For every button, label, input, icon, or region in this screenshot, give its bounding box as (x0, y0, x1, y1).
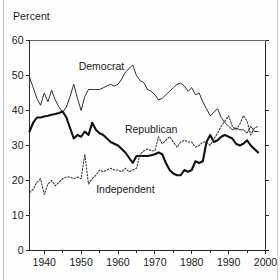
line-chart-plot: 0102030405060 19401950196019701980199020… (0, 0, 280, 280)
series-label-republican: Republican (125, 123, 178, 135)
chart-figure: Percent 0102030405060 194019501960197019… (0, 0, 280, 280)
y-tick-label: 50 (12, 69, 24, 81)
y-tick-label: 20 (12, 174, 24, 186)
x-axis-tick-labels: 1940195019601970198019902000 (33, 256, 278, 268)
series-annotations: DemocratDemocratRepublicanRepublicanInde… (79, 60, 178, 195)
y-tick-label: 60 (12, 34, 24, 46)
y-tick-label: 40 (12, 104, 24, 116)
y-tick-label: 30 (12, 139, 24, 151)
x-tick-label: 1960 (106, 256, 130, 268)
axis-ticks (26, 41, 269, 255)
x-tick-label: 1940 (33, 256, 57, 268)
x-tick-label: 1980 (180, 256, 204, 268)
y-tick-label: 0 (18, 244, 24, 256)
series-label-democrat: Democrat (79, 60, 125, 72)
x-tick-label: 2000 (254, 256, 278, 268)
y-tick-label: 10 (12, 209, 24, 221)
x-tick-label: 1970 (143, 256, 167, 268)
y-axis-tick-labels: 0102030405060 (12, 34, 24, 256)
x-tick-label: 1950 (69, 256, 93, 268)
plot-frame (30, 41, 266, 251)
x-tick-label: 1990 (217, 256, 241, 268)
series-label-independent: Independent (96, 183, 154, 195)
